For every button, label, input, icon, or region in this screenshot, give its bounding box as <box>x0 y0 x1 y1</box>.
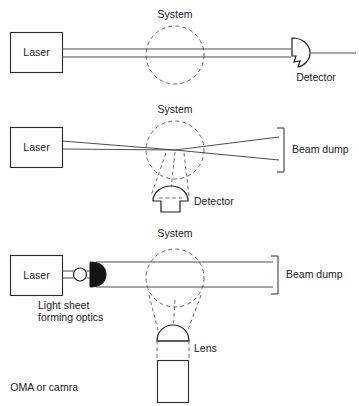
panel-transmission: System Laser Detector <box>11 8 357 84</box>
beam-dump-label-panel2: Beam dump <box>292 143 349 155</box>
optical-diagram-figure: System Laser Detector System Laser Beam … <box>0 0 359 406</box>
dome-detector-panel2 <box>153 186 188 212</box>
panel-focused-scattering: System Laser Beam dump Detector <box>11 103 349 212</box>
beam-diverge-top-panel2 <box>175 137 279 150</box>
laser-label-panel3: Laser <box>23 269 50 281</box>
lens-dome-panel3 <box>157 325 189 341</box>
photodiode-detector-panel1 <box>292 38 310 67</box>
cylindrical-lens-panel3 <box>90 262 106 287</box>
beam-diverge-bottom-panel2 <box>175 150 279 160</box>
detector-label-panel2: Detector <box>194 195 234 207</box>
diagram-canvas: System Laser Detector System Laser Beam … <box>0 0 359 406</box>
detector-label-panel1: Detector <box>296 71 336 83</box>
system-region-circle-panel3 <box>146 249 204 307</box>
optics-label-line2-panel3: forming optics <box>38 311 103 323</box>
camera-body-panel3 <box>158 361 189 403</box>
spherical-lens-panel3 <box>74 268 87 281</box>
beam-converge-top-panel2 <box>62 141 175 150</box>
system-region-circle-panel1 <box>146 26 204 84</box>
lens-label-panel3: Lens <box>194 342 217 354</box>
beam-dump-bracket-panel2 <box>277 128 284 172</box>
beam-converge-bottom-panel2 <box>62 149 175 150</box>
system-label-panel2: System <box>157 103 192 115</box>
collection-cone-right-panel2 <box>184 153 189 196</box>
system-label-panel3: System <box>157 227 192 239</box>
system-label-panel1: System <box>157 8 192 20</box>
panel-light-sheet: System Laser Beam dump Light sheet formi… <box>10 227 342 403</box>
camera-label-panel3: OMA or camra <box>10 381 78 393</box>
imaging-cone-right-panel3 <box>188 295 201 330</box>
beam-dump-label-panel3: Beam dump <box>286 268 343 280</box>
laser-label-panel2: Laser <box>23 141 50 153</box>
optics-label-line1-panel3: Light sheet <box>38 299 89 311</box>
laser-label-panel1: Laser <box>23 46 50 58</box>
